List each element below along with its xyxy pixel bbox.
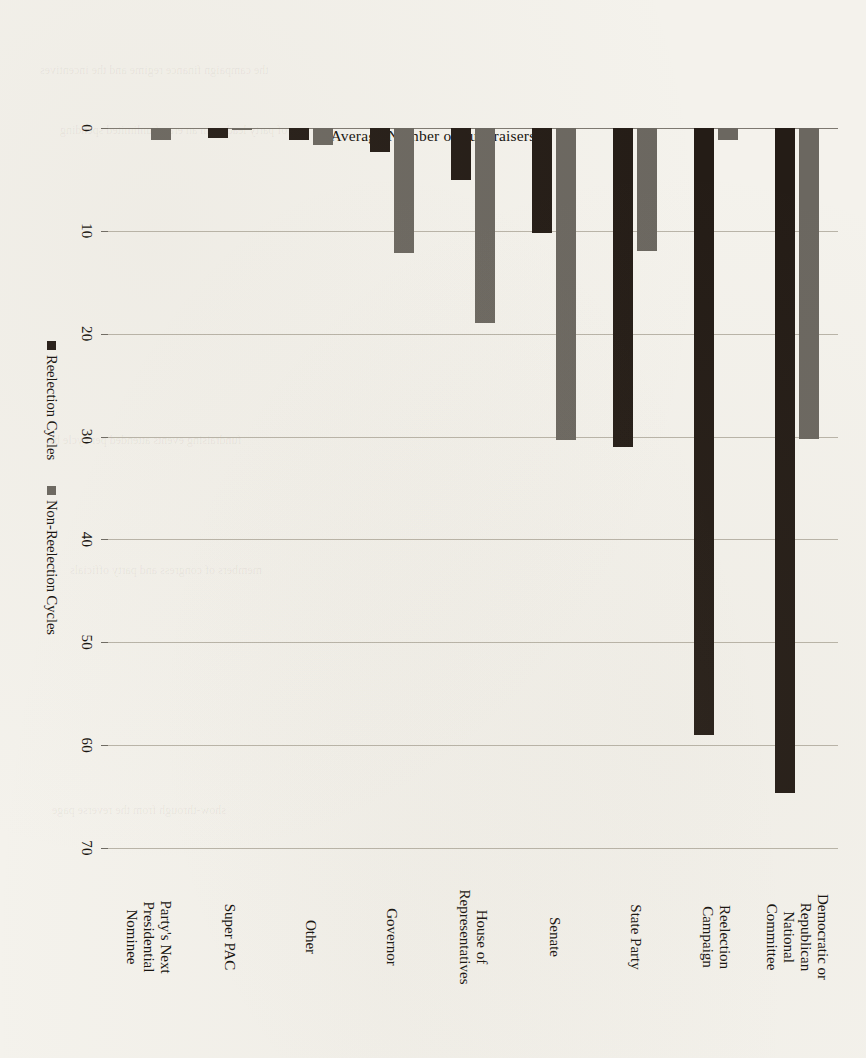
category-label-line: Other (302, 862, 319, 1012)
category-label-line: Representatives (456, 862, 473, 1012)
bar-non-reelection (799, 128, 819, 439)
category-group (351, 128, 432, 848)
category-label: Governor (383, 862, 400, 1012)
category-label: ReelectionCampaign (699, 862, 733, 1012)
bar-reelection (208, 128, 228, 138)
bar-reelection (532, 128, 552, 233)
category-group (514, 128, 595, 848)
category-label-line: Senate (546, 862, 563, 1012)
axis-tick-70 (101, 848, 108, 849)
category-label-line: Governor (383, 862, 400, 1012)
axis-tick-50 (101, 642, 108, 643)
axis-tick-60 (101, 745, 108, 746)
category-label-line: Nominee (123, 862, 140, 1012)
category-label: Party's NextPresidentialNominee (123, 862, 174, 1012)
gridline-70 (108, 848, 838, 849)
category-group (432, 128, 513, 848)
bar-non-reelection (151, 128, 171, 140)
category-group (676, 128, 757, 848)
category-label: Senate (546, 862, 563, 1012)
category-group (108, 128, 189, 848)
plot-area: 010203040506070Democratic orRepublicanNa… (108, 128, 838, 848)
bar-reelection (694, 128, 714, 735)
category-label-line: Democratic or (814, 862, 831, 1012)
rotated-figure-wrapper: Average Number of Fundraisers 0102030405… (0, 0, 866, 1058)
category-label: Other (302, 862, 319, 1012)
axis-tick-label-30: 30 (78, 415, 95, 459)
axis-tick-label-60: 60 (78, 723, 95, 767)
axis-tick-label-40: 40 (78, 517, 95, 561)
bar-non-reelection (556, 128, 576, 440)
axis-tick-10 (101, 231, 108, 232)
category-label: State Party (627, 862, 644, 1012)
legend-swatch-reelection (47, 341, 56, 350)
category-label-line: Republican (797, 862, 814, 1012)
axis-tick-label-10: 10 (78, 209, 95, 253)
chart-legend: Reelection Cycles Non-Reelection Cycles (43, 128, 60, 848)
scanned-page: the campaign finance regime and the ince… (0, 0, 866, 1058)
legend-swatch-non-reelection (47, 486, 56, 495)
bar-reelection (613, 128, 633, 447)
category-label-line: Committee (763, 862, 780, 1012)
category-group (595, 128, 676, 848)
bar-non-reelection (394, 128, 414, 253)
category-group (757, 128, 838, 848)
legend-item-non-reelection: Non-Reelection Cycles (43, 486, 60, 635)
bar-non-reelection (637, 128, 657, 251)
bar-non-reelection (475, 128, 495, 323)
category-group (189, 128, 270, 848)
bar-non-reelection (718, 128, 738, 140)
category-label-line: Party's Next (157, 862, 174, 1012)
legend-label-non-reelection: Non-Reelection Cycles (43, 500, 60, 635)
category-label-line: House of (473, 862, 490, 1012)
axis-tick-30 (101, 437, 108, 438)
category-label-line: Campaign (699, 862, 716, 1012)
category-group (270, 128, 351, 848)
axis-tick-label-0: 0 (78, 106, 95, 150)
bar-reelection (451, 128, 471, 180)
category-label: Democratic orRepublicanNationalCommittee (763, 862, 831, 1012)
category-label-line: National (780, 862, 797, 1012)
bar-reelection (289, 128, 309, 140)
axis-tick-label-20: 20 (78, 312, 95, 356)
axis-tick-20 (101, 334, 108, 335)
axis-tick-0 (101, 128, 108, 129)
category-label: House ofRepresentatives (456, 862, 490, 1012)
bar-reelection (370, 128, 390, 152)
category-label-line: State Party (627, 862, 644, 1012)
axis-tick-label-70: 70 (78, 826, 95, 870)
axis-tick-label-50: 50 (78, 620, 95, 664)
category-label-line: Presidential (140, 862, 157, 1012)
category-label-line: Super PAC (221, 862, 238, 1012)
axis-tick-40 (101, 539, 108, 540)
category-label-line: Reelection (716, 862, 733, 1012)
legend-item-reelection: Reelection Cycles (43, 341, 60, 460)
bar-chart-figure: Average Number of Fundraisers 0102030405… (0, 0, 866, 1058)
bar-non-reelection (232, 128, 252, 130)
bar-reelection (775, 128, 795, 793)
category-label: Super PAC (221, 862, 238, 1012)
bar-non-reelection (313, 128, 333, 145)
legend-label-reelection: Reelection Cycles (43, 355, 60, 460)
